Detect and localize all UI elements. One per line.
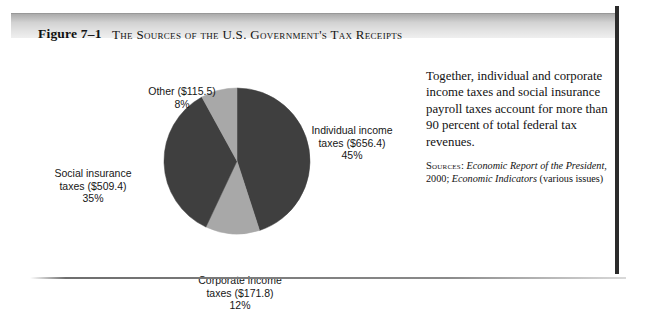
sources-label: Sources:	[426, 160, 464, 171]
figure-frame: Figure 7–1 The Sources of the U.S. Gover…	[11, 6, 619, 274]
figure-header-band: Figure 7–1 The Sources of the U.S. Gover…	[11, 13, 615, 38]
sources-line: Sources: Economic Report of the Presiden…	[426, 159, 614, 185]
sources-tail: (various issues)	[537, 173, 603, 184]
pie-label-other: Other ($115.5)8%	[128, 85, 236, 110]
figure-bottom-rule	[30, 277, 626, 279]
sources-title-2: Economic Indicators	[452, 173, 537, 184]
pie-label-individual-income: Individual incometaxes ($656.4)45%	[296, 124, 408, 162]
pie-label-corporate-income: Corporate incometaxes ($171.8)12%	[174, 274, 306, 312]
pie-label-social-insurance: Social insurancetaxes ($509.4)35%	[35, 167, 151, 205]
caption-text: Together, individual and corporate incom…	[426, 68, 614, 150]
sources-title-1: Economic Report of the President	[467, 160, 605, 171]
pie-chart: Other ($115.5)8% Individual incometaxes …	[11, 38, 411, 278]
caption-block: Together, individual and corporate incom…	[426, 68, 614, 185]
